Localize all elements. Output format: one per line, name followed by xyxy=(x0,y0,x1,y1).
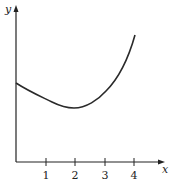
x-tick-label-1: 1 xyxy=(43,169,50,182)
function-curve xyxy=(16,35,135,108)
y-axis-arrow-icon xyxy=(14,5,19,12)
x-tick-label-2: 2 xyxy=(72,169,79,182)
x-tick-label-4: 4 xyxy=(131,169,138,182)
x-axis-label: x xyxy=(162,163,169,176)
y-axis-label: y xyxy=(4,3,12,16)
x-tick-label-3: 3 xyxy=(102,169,109,182)
chart: 1 2 3 4 x y xyxy=(0,0,170,187)
